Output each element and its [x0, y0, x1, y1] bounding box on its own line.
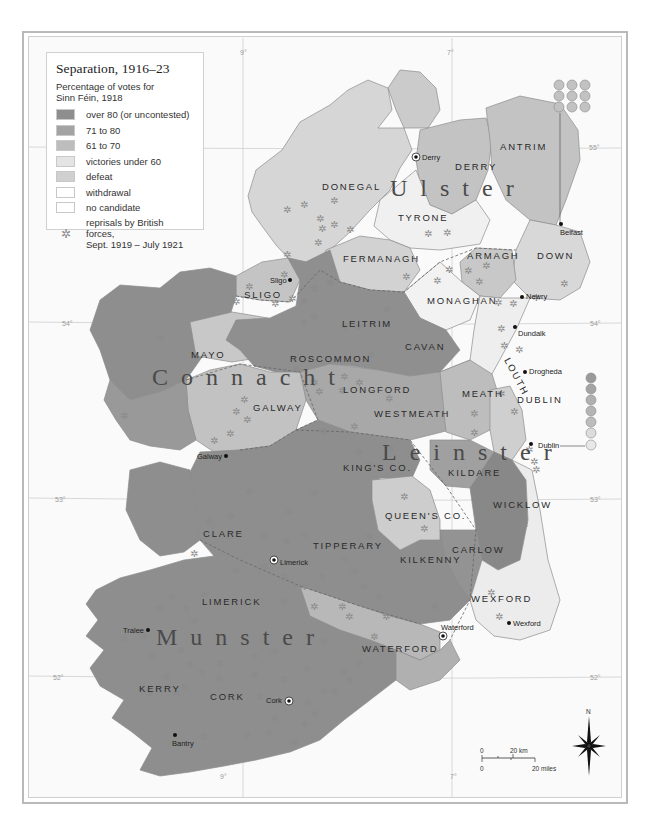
svg-text:✲: ✲	[265, 727, 273, 738]
county-tipperary: TIPPERARY	[313, 540, 383, 551]
lat-53-left: 53°	[55, 496, 66, 503]
county-clare: CLARE	[203, 528, 244, 539]
town-cork: Cork	[266, 696, 282, 705]
scale-km-label: 20 km	[510, 747, 528, 754]
svg-text:✲: ✲	[360, 581, 368, 592]
svg-text:✲: ✲	[280, 674, 288, 685]
lon-7-bottom: 7°	[450, 773, 457, 780]
svg-text:✲: ✲	[350, 566, 358, 577]
svg-text:✲: ✲	[560, 278, 568, 289]
county-dublin: DUBLIN	[517, 394, 563, 405]
scale-mi-label: 20 miles	[532, 765, 557, 772]
svg-text:✲: ✲	[240, 394, 248, 405]
lon-7-top: 7°	[447, 49, 454, 56]
svg-text:✲: ✲	[375, 591, 383, 602]
lat-55-right: 55°	[589, 144, 600, 151]
scale-mi-zero: 0	[480, 765, 484, 772]
svg-text:✲: ✲	[532, 464, 540, 475]
legend-reprisal-line2: forces,	[86, 228, 183, 239]
svg-text:✲: ✲	[420, 523, 428, 534]
svg-text:✲: ✲	[424, 228, 432, 239]
legend-subtitle: Percentage of votes for Sinn Féin, 1918	[56, 81, 195, 103]
svg-text:✲: ✲	[497, 323, 505, 334]
svg-text:✲: ✲	[383, 304, 391, 315]
county-kilkenny: KILKENNY	[400, 554, 461, 565]
svg-text:✲: ✲	[283, 249, 291, 260]
svg-text:✲: ✲	[303, 663, 311, 674]
svg-text:✲: ✲	[270, 713, 278, 724]
lon-9-bottom: 9°	[220, 773, 227, 780]
legend-label: victories under 60	[86, 156, 161, 167]
svg-text:✲: ✲	[243, 729, 251, 740]
county-monaghan: MONAGHAN	[427, 295, 497, 306]
county-westmeath: WESTMEATH	[374, 408, 450, 419]
svg-text:✲: ✲	[280, 596, 288, 607]
svg-text:✲: ✲	[382, 611, 390, 622]
svg-text:✲: ✲	[310, 488, 318, 499]
svg-text:✲: ✲	[185, 659, 193, 670]
scale-km-zero: 0	[480, 747, 484, 754]
lat-53-right: 53°	[590, 496, 601, 503]
svg-text:✲: ✲	[300, 317, 308, 328]
svg-text:✲: ✲	[260, 531, 268, 542]
county-carlow: CARLOW	[452, 544, 505, 555]
svg-text:✲: ✲	[300, 296, 308, 307]
legend-label: withdrawal	[86, 187, 131, 198]
legend-item-no-candidate: no candidate	[56, 200, 195, 216]
svg-text:✲: ✲	[304, 697, 312, 708]
county-down: DOWN	[537, 250, 574, 261]
svg-text:✲: ✲	[282, 536, 290, 547]
svg-text:✲: ✲	[120, 410, 128, 421]
legend-item-71-80: 71 to 80	[56, 123, 195, 139]
svg-text:✲: ✲	[402, 271, 410, 282]
compass-north-label: N	[586, 708, 591, 715]
svg-text:✲: ✲	[250, 669, 258, 680]
svg-text:✲: ✲	[330, 195, 338, 206]
lat-52-right: 52°	[590, 674, 601, 681]
svg-text:✲: ✲	[314, 237, 322, 248]
town-bantry: Bantry	[172, 739, 194, 748]
legend-panel: Separation, 1916–23 Percentage of votes …	[46, 52, 204, 230]
town-wexford: Wexford	[513, 619, 541, 628]
svg-text:✲: ✲	[300, 581, 308, 592]
county-donegal: DONEGAL	[322, 181, 381, 192]
county-leitrim: LEITRIM	[342, 318, 392, 329]
legend-reprisal-label: reprisals by British forces, Sept. 1919 …	[86, 217, 183, 250]
svg-text:✲: ✲	[215, 658, 223, 669]
county-armagh: ARMAGH	[467, 250, 520, 261]
lat-54-right: 54°	[590, 320, 601, 327]
svg-text:✲: ✲	[227, 511, 235, 522]
svg-text:✲: ✲	[495, 611, 503, 622]
county-cavan: CAVAN	[405, 341, 445, 352]
svg-text:✲: ✲	[283, 204, 291, 215]
svg-text:✲: ✲	[155, 603, 163, 614]
dublin-circle-stack	[586, 373, 596, 450]
county-queens-co: QUEEN'S CO.	[385, 510, 466, 521]
lon-9-top: 9°	[240, 49, 247, 56]
legend-reprisal-line3: Sept. 1919 – July 1921	[86, 239, 183, 250]
town-dublin: Dublin	[538, 441, 559, 450]
svg-text:✲: ✲	[232, 296, 240, 307]
svg-text:✲: ✲	[148, 651, 156, 662]
svg-text:✲: ✲	[330, 686, 338, 697]
town-limerick: Limerick	[280, 558, 308, 567]
town-derry: Derry	[422, 153, 441, 162]
svg-text:✲: ✲	[300, 199, 308, 210]
belfast-circle-stack	[554, 80, 590, 112]
svg-text:✲: ✲	[300, 529, 308, 540]
svg-text:✲: ✲	[340, 666, 348, 677]
legend-title: Separation, 1916–23	[56, 61, 195, 77]
town-belfast: Belfast	[560, 228, 584, 237]
svg-text:✲: ✲	[515, 344, 523, 355]
svg-text:✲: ✲	[370, 631, 378, 642]
legend-subtitle-line2: Sinn Féin, 1918	[56, 92, 195, 103]
town-dundalk: Dundalk	[518, 329, 546, 338]
province-munster: Munster	[156, 624, 327, 650]
legend-label: 61 to 70	[86, 140, 120, 151]
svg-text:✲: ✲	[198, 667, 206, 678]
svg-text:✲: ✲	[330, 219, 338, 230]
svg-text:✲: ✲	[475, 276, 483, 287]
legend-label: 71 to 80	[86, 125, 120, 136]
legend-item-victories-under-60: victories under 60	[56, 154, 195, 170]
legend-item-61-70: 61 to 70	[56, 138, 195, 154]
